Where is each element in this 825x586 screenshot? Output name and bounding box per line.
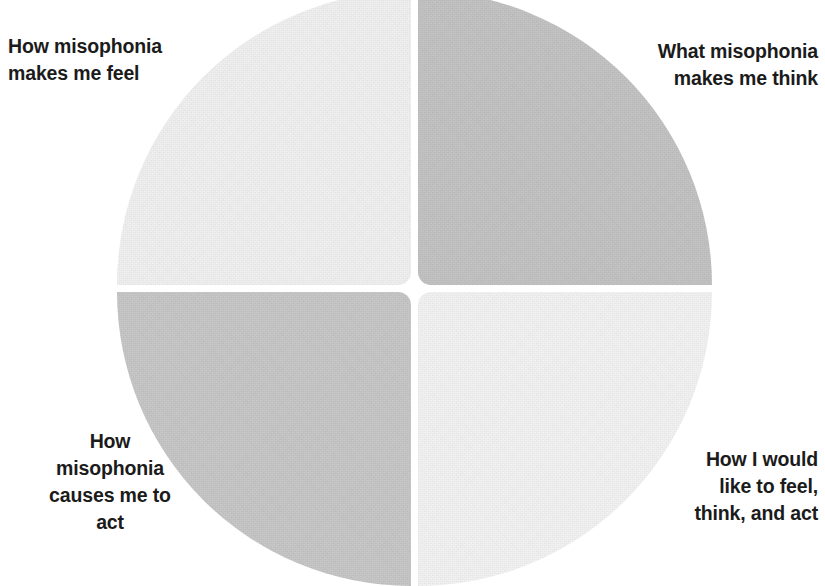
- quadrant-bottom-right[interactable]: [418, 292, 712, 586]
- quadrant-label-bottom-left: How misophonia causes me to act: [10, 428, 210, 536]
- quadrant-label-bottom-right: How I would like to feel, think, and act: [598, 446, 818, 527]
- quadrant-label-top-left: How misophonia makes me feel: [8, 33, 258, 87]
- quadrant-label-top-right: What misophonia makes me think: [558, 38, 818, 92]
